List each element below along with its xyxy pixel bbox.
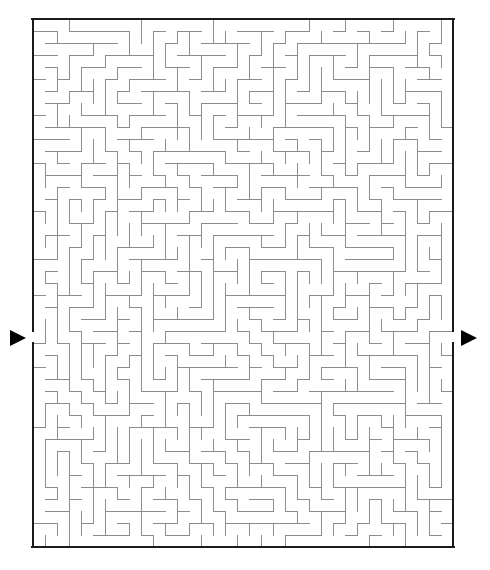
maze-canvas xyxy=(0,0,490,570)
maze-puzzle-figure xyxy=(0,0,490,570)
